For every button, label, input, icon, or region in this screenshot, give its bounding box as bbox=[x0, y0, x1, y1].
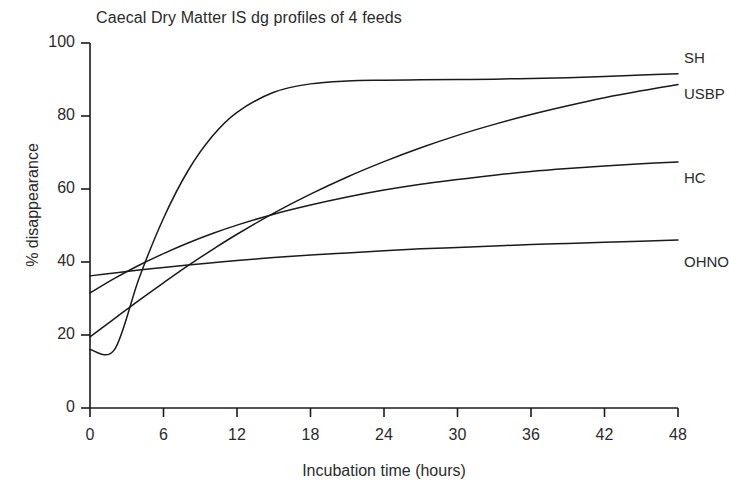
y-tick-label: 40 bbox=[29, 252, 75, 270]
x-tick-label: 18 bbox=[291, 426, 331, 444]
series-label-sh: SH bbox=[684, 49, 705, 66]
y-tick-marks bbox=[81, 43, 90, 408]
y-tick-label: 80 bbox=[29, 106, 75, 124]
x-tick-label: 12 bbox=[217, 426, 257, 444]
series-label-usbp: USBP bbox=[684, 85, 725, 102]
series-line-hc bbox=[90, 162, 678, 293]
x-tick-label: 48 bbox=[658, 426, 698, 444]
x-tick-marks bbox=[90, 408, 678, 417]
x-tick-label: 0 bbox=[70, 426, 110, 444]
y-tick-label: 20 bbox=[29, 325, 75, 343]
axis-lines bbox=[90, 43, 678, 408]
series-line-usbp bbox=[90, 85, 678, 337]
series-line-sh bbox=[90, 74, 678, 355]
x-tick-label: 42 bbox=[585, 426, 625, 444]
series-line-ohno bbox=[90, 240, 678, 276]
y-tick-label: 60 bbox=[29, 179, 75, 197]
series-label-hc: HC bbox=[684, 169, 706, 186]
x-tick-label: 24 bbox=[364, 426, 404, 444]
y-tick-label: 0 bbox=[29, 398, 75, 416]
y-tick-label: 100 bbox=[29, 33, 75, 51]
x-tick-label: 6 bbox=[144, 426, 184, 444]
x-tick-label: 30 bbox=[438, 426, 478, 444]
x-tick-label: 36 bbox=[511, 426, 551, 444]
series-label-ohno: OHNO bbox=[684, 253, 729, 270]
series-paths bbox=[90, 74, 678, 355]
